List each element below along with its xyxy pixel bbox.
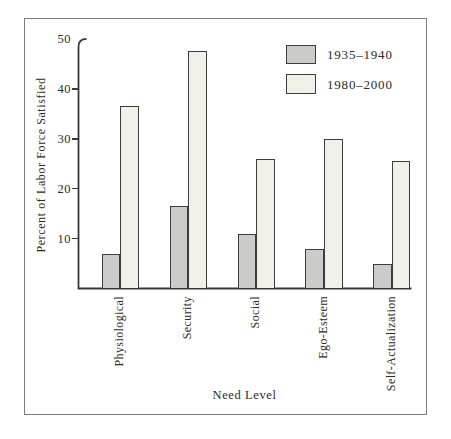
bar-security-1935-1940	[170, 206, 189, 288]
bar-physiological-1980-2000	[120, 106, 139, 288]
x-axis-title: Need Level	[78, 388, 411, 403]
y-tick-label-10: 10	[38, 231, 71, 247]
y-tick-30	[72, 138, 79, 140]
bar-self-actualization-1980-2000	[392, 161, 411, 288]
y-tick-10	[72, 238, 79, 240]
y-tick-label-20: 20	[38, 181, 71, 197]
legend-label-1935-1940: 1935–1940	[327, 47, 393, 62]
legend-swatch-1935-1940	[286, 45, 316, 64]
y-tick-40	[72, 88, 79, 90]
bar-ego-esteem-1935-1940	[305, 249, 324, 289]
y-tick-label-30: 30	[38, 131, 71, 147]
y-tick-label-50: 50	[38, 31, 71, 47]
y-tick-20	[72, 188, 79, 190]
bar-ego-esteem-1980-2000	[324, 139, 343, 289]
bar-security-1980-2000	[188, 51, 207, 288]
legend-swatch-1980-2000	[286, 74, 316, 94]
bar-self-actualization-1935-1940	[373, 264, 392, 289]
bar-social-1935-1940	[238, 234, 257, 289]
figure-canvas: Percent of Labor Force Satisfied 1020304…	[0, 0, 451, 439]
y-tick-label-40: 40	[38, 81, 71, 97]
bar-social-1980-2000	[256, 159, 275, 289]
legend-label-1980-2000: 1980–2000	[327, 77, 393, 92]
bar-physiological-1935-1940	[102, 254, 121, 289]
